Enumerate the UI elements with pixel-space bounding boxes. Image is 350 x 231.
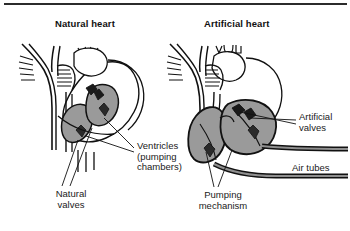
label-artificial-valves: Artificial valves	[299, 112, 332, 133]
label-pumping-mechanism: Pumping mechanism	[186, 190, 260, 211]
natural-heart-drawing	[19, 44, 144, 186]
leader-ventricles-2	[86, 136, 134, 152]
panel-heading-artificial-heart: Artificial heart	[204, 18, 269, 29]
brachiocephalic-branch	[52, 46, 54, 72]
artificial-vessel-hatch-marks	[167, 56, 183, 80]
aorta-descending	[22, 44, 52, 150]
figure-canvas: Natural heart Artificial heart Ventricle…	[0, 0, 350, 231]
trachea-hatching	[57, 70, 72, 86]
artificial-brachiocephalic	[200, 46, 202, 72]
leader-natural-valves-1	[62, 140, 78, 186]
panel-heading-natural-heart: Natural heart	[55, 18, 115, 29]
artificial-vein-notch-3	[236, 45, 241, 53]
vessel-hatch-marks	[19, 56, 35, 80]
brachiocephalic-branch-inner	[58, 46, 60, 76]
label-air-tubes: Air tubes	[292, 163, 330, 174]
artificial-brachiocephalic-inner	[206, 46, 208, 76]
natural-atrium	[74, 48, 107, 76]
label-natural-valves: Natural valves	[41, 189, 101, 210]
label-ventricles: Ventricles (pumping chambers)	[137, 141, 182, 173]
natural-lower-vessels	[78, 150, 94, 172]
